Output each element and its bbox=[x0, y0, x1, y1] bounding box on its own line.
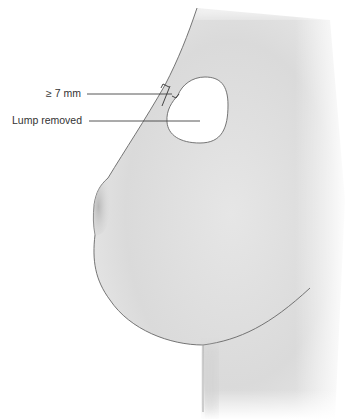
breast-diagram bbox=[0, 0, 349, 419]
lump-removed-label: Lump removed bbox=[12, 114, 82, 126]
body-silhouette bbox=[93, 0, 349, 419]
margin-label: ≥ 7 mm bbox=[46, 87, 81, 99]
